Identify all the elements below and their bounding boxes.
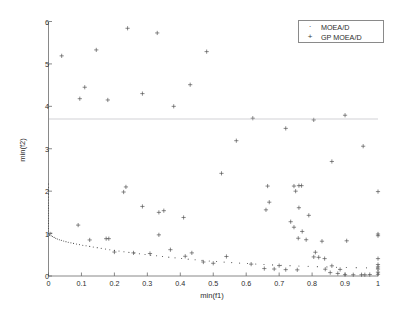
x-tick-label: 0.3 bbox=[142, 279, 152, 288]
series-moead-points bbox=[48, 183, 377, 268]
axis-lines bbox=[49, 22, 379, 277]
legend-label-moead: MOEA/D bbox=[321, 23, 349, 32]
y-tick-label: 0 bbox=[45, 272, 49, 281]
y-axis-label: min(f2) bbox=[18, 138, 27, 162]
tick-marks bbox=[49, 22, 379, 277]
y-tick-label: 1 bbox=[45, 229, 49, 238]
series-gp-moead-points bbox=[60, 26, 381, 277]
legend-plus-marker-icon: + bbox=[299, 33, 321, 41]
x-tick-label: 0.1 bbox=[76, 279, 86, 288]
y-tick-label: 4 bbox=[45, 102, 49, 111]
x-axis-label: min(f1) bbox=[200, 291, 224, 300]
scatter-plot-figure: 00.10.20.30.40.50.60.70.80.91 0123456 mi… bbox=[0, 0, 411, 314]
x-tick-label: 0.2 bbox=[109, 279, 119, 288]
legend-label-gp-moead: GP MOEA/D bbox=[321, 33, 362, 42]
legend-entry-gp-moead: + GP MOEA/D bbox=[299, 32, 383, 42]
x-tick-label: 0.5 bbox=[208, 279, 218, 288]
legend-entry-moead: · MOEA/D bbox=[299, 22, 383, 32]
x-tick-label: 0.8 bbox=[307, 279, 317, 288]
plot-canvas bbox=[0, 0, 411, 314]
x-tick-label: 0.6 bbox=[241, 279, 251, 288]
x-tick-label: 0.9 bbox=[340, 279, 350, 288]
x-tick-label: 0.4 bbox=[175, 279, 185, 288]
scan-artifact bbox=[49, 118, 378, 120]
y-tick-label: 2 bbox=[45, 187, 49, 196]
x-tick-label: 1 bbox=[376, 279, 380, 288]
y-tick-label: 3 bbox=[45, 144, 49, 153]
legend-box: · MOEA/D + GP MOEA/D bbox=[298, 20, 384, 43]
y-tick-label: 5 bbox=[45, 59, 49, 68]
y-tick-label: 6 bbox=[45, 17, 49, 26]
x-tick-label: 0.7 bbox=[274, 279, 284, 288]
legend-dot-marker-icon: · bbox=[299, 23, 321, 31]
